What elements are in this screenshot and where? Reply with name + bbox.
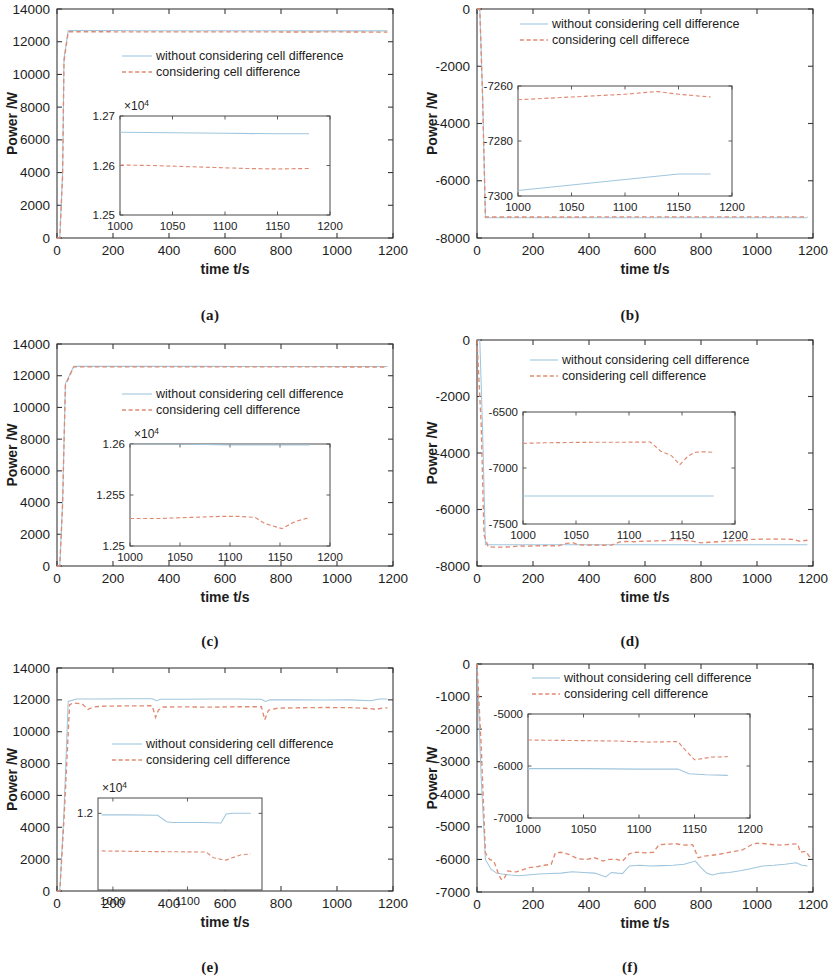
svg-text:400: 400 <box>158 243 181 258</box>
svg-text:0: 0 <box>53 243 61 258</box>
svg-text:1.27: 1.27 <box>93 110 115 122</box>
y-axis-label: Power /W <box>424 421 440 485</box>
svg-text:-1000: -1000 <box>435 689 470 704</box>
svg-text:1150: 1150 <box>666 201 691 213</box>
svg-text:-6000: -6000 <box>494 760 523 772</box>
panel-c: 0200400600800100012000200040006000800010… <box>0 326 420 652</box>
svg-text:-7500: -7500 <box>489 518 518 530</box>
svg-text:1000: 1000 <box>515 823 541 835</box>
svg-text:200: 200 <box>522 243 545 258</box>
svg-text:600: 600 <box>214 896 237 911</box>
svg-text:1100: 1100 <box>627 823 652 835</box>
svg-text:-6500: -6500 <box>489 406 518 418</box>
svg-text:4000: 4000 <box>20 495 50 510</box>
svg-text:-7000: -7000 <box>435 885 470 900</box>
svg-text:-8000: -8000 <box>435 231 470 246</box>
svg-text:-5000: -5000 <box>435 819 470 834</box>
svg-text:0: 0 <box>42 231 50 246</box>
panel-b: 020040060080010001200-8000-6000-4000-200… <box>420 0 840 326</box>
svg-text:400: 400 <box>578 571 601 586</box>
svg-text:-7000: -7000 <box>494 812 523 824</box>
svg-text:0: 0 <box>473 897 481 912</box>
legend-label-considering: considering cell difference <box>156 65 300 79</box>
svg-text:1000: 1000 <box>322 243 352 258</box>
svg-text:8000: 8000 <box>20 432 50 447</box>
panel-f-caption: (f) <box>420 959 840 976</box>
svg-text:0: 0 <box>42 884 50 899</box>
svg-text:800: 800 <box>270 243 293 258</box>
svg-text:12000: 12000 <box>12 368 50 383</box>
y-axis-label: Power /W <box>4 91 20 155</box>
svg-text:1000: 1000 <box>117 551 143 563</box>
inset-frame <box>120 116 330 215</box>
panel-b-caption: (b) <box>420 307 840 324</box>
svg-text:2000: 2000 <box>20 198 50 213</box>
y-axis-label: Power /W <box>4 747 20 811</box>
svg-text:1200: 1200 <box>798 571 828 586</box>
svg-text:1.2: 1.2 <box>77 807 93 819</box>
legend-label-without: without considering cell difference <box>563 671 751 685</box>
svg-text:1150: 1150 <box>670 529 695 541</box>
figure-six-panel-power-plots: 0200400600800100012000200040006000800010… <box>0 0 840 979</box>
svg-text:0: 0 <box>473 243 481 258</box>
svg-text:4000: 4000 <box>20 820 50 835</box>
x-axis-label: time t/s <box>200 589 249 605</box>
svg-text:1150: 1150 <box>265 220 290 232</box>
svg-text:14000: 14000 <box>12 337 50 352</box>
x-axis-label: time t/s <box>200 261 249 277</box>
svg-text:-7300: -7300 <box>484 190 513 202</box>
svg-text:800: 800 <box>690 897 713 912</box>
svg-text:-5000: -5000 <box>494 708 523 720</box>
svg-text:600: 600 <box>634 243 657 258</box>
svg-text:-7260: -7260 <box>484 80 513 92</box>
panel-a-chart: 0200400600800100012000200040006000800010… <box>0 0 420 326</box>
svg-text:0: 0 <box>462 2 470 17</box>
svg-text:200: 200 <box>102 571 125 586</box>
svg-text:14000: 14000 <box>12 2 50 17</box>
svg-text:-7280: -7280 <box>484 135 513 147</box>
svg-text:2000: 2000 <box>20 527 50 542</box>
svg-text:1050: 1050 <box>563 529 589 541</box>
svg-text:8000: 8000 <box>20 756 50 771</box>
svg-text:1000: 1000 <box>322 571 352 586</box>
svg-text:1000: 1000 <box>510 529 536 541</box>
svg-text:-2000: -2000 <box>435 389 470 404</box>
svg-text:6000: 6000 <box>20 788 50 803</box>
legend-label-without: without considering cell difference <box>561 353 749 367</box>
panel-a: 0200400600800100012000200040006000800010… <box>0 0 420 326</box>
inset-frame <box>528 714 750 818</box>
panel-d-chart: 020040060080010001200-8000-6000-4000-200… <box>420 326 840 652</box>
svg-text:200: 200 <box>102 243 125 258</box>
svg-text:0: 0 <box>462 657 470 672</box>
svg-text:1.26: 1.26 <box>93 160 115 172</box>
svg-text:600: 600 <box>634 897 657 912</box>
x-axis-label: time t/s <box>620 589 669 605</box>
panel-c-caption: (c) <box>0 633 420 650</box>
svg-text:1200: 1200 <box>378 243 408 258</box>
inset-exponent-label: ×104 <box>134 426 159 441</box>
svg-text:1000: 1000 <box>107 220 133 232</box>
svg-text:600: 600 <box>214 571 237 586</box>
panel-a-caption: (a) <box>0 307 420 324</box>
svg-text:-8000: -8000 <box>435 559 470 574</box>
svg-text:1100: 1100 <box>617 529 642 541</box>
legend-label-without: without considering cell difference <box>155 49 343 63</box>
svg-text:0: 0 <box>53 571 61 586</box>
svg-text:1200: 1200 <box>798 243 828 258</box>
inset-frame <box>98 798 262 890</box>
panel-f: 020040060080010001200-7000-6000-5000-400… <box>420 652 840 978</box>
svg-text:1100: 1100 <box>613 201 638 213</box>
svg-text:1050: 1050 <box>571 823 597 835</box>
panel-c-chart: 0200400600800100012000200040006000800010… <box>0 326 420 652</box>
svg-text:1.26: 1.26 <box>103 438 125 450</box>
x-axis-label: time t/s <box>620 261 669 277</box>
svg-text:6000: 6000 <box>20 463 50 478</box>
svg-text:1.25: 1.25 <box>103 540 125 552</box>
y-axis-label: Power /W <box>4 423 20 487</box>
x-axis-label: time t/s <box>200 914 249 930</box>
svg-text:1200: 1200 <box>378 896 408 911</box>
svg-text:1050: 1050 <box>559 201 585 213</box>
svg-text:0: 0 <box>42 559 50 574</box>
inset-frame <box>130 444 330 546</box>
svg-text:0: 0 <box>53 896 61 911</box>
